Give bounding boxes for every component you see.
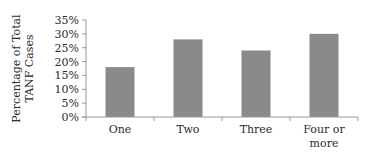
y-tick-label: 0% xyxy=(62,111,79,124)
x-tick-label: Two xyxy=(177,123,200,136)
y-axis-ticks: 0%5%10%15%20%25%30%35% xyxy=(55,14,86,124)
y-tick-label: 15% xyxy=(55,69,79,82)
y-axis-title-line: Percentage of Total xyxy=(10,14,23,123)
x-tick-label: One xyxy=(109,123,132,136)
bars xyxy=(106,34,339,117)
y-tick-label: 25% xyxy=(55,42,79,55)
y-tick-label: 10% xyxy=(55,83,79,96)
y-axis-title: Percentage of TotalTANF Cases xyxy=(10,14,36,123)
x-tick-label: more xyxy=(310,137,339,150)
y-tick-label: 5% xyxy=(62,97,79,110)
y-tick-label: 30% xyxy=(55,28,79,41)
x-axis-ticks: OneTwoThreeFour ormore xyxy=(86,117,358,150)
y-tick-label: 35% xyxy=(55,14,79,27)
y-tick-label: 20% xyxy=(55,56,79,69)
bar-chart: Percentage of TotalTANF Cases 0%5%10%15%… xyxy=(0,0,373,157)
bar-four-or-more xyxy=(310,34,339,117)
bar-three xyxy=(242,50,271,117)
y-axis-title-line: TANF Cases xyxy=(23,34,36,103)
bar-two xyxy=(174,39,203,117)
x-tick-label: Three xyxy=(240,123,273,136)
bar-one xyxy=(106,67,135,117)
x-tick-label: Four or xyxy=(303,123,345,136)
